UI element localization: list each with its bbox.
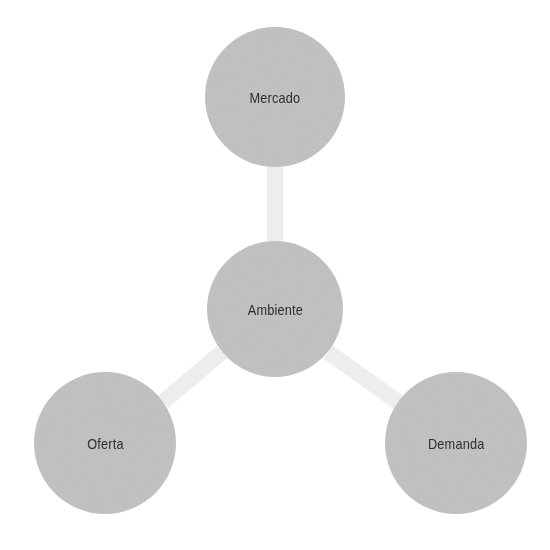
- node-demanda: Demanda: [385, 372, 527, 514]
- node-oferta: Oferta: [34, 372, 176, 514]
- node-label-ambiente: Ambiente: [247, 301, 302, 318]
- node-ambiente: Ambiente: [207, 241, 343, 377]
- node-label-demanda: Demanda: [428, 435, 484, 452]
- node-label-oferta: Oferta: [87, 435, 123, 452]
- connector-ambiente-oferta: [163, 352, 222, 402]
- connector-ambiente-demanda: [328, 352, 398, 402]
- node-mercado: Mercado: [205, 27, 345, 167]
- node-label-mercado: Mercado: [250, 89, 301, 106]
